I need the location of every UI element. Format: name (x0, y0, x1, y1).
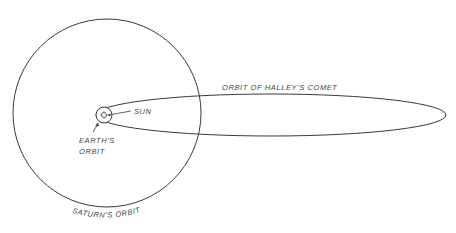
earth-orbit-label-line1: EARTH'S (79, 136, 115, 145)
halley-orbit-label: ORBIT OF HALLEY'S COMET (222, 83, 338, 92)
sun-pointer-line (111, 111, 131, 115)
sun-label: SUN (134, 107, 152, 116)
earth-orbit-label-line2: ORBIT (79, 147, 106, 156)
orbit-diagram: SUN EARTH'S ORBIT ORBIT OF HALLEY'S COME… (0, 0, 456, 233)
earth-dot (108, 114, 110, 116)
earth-orbit-arrow-icon (93, 123, 99, 133)
